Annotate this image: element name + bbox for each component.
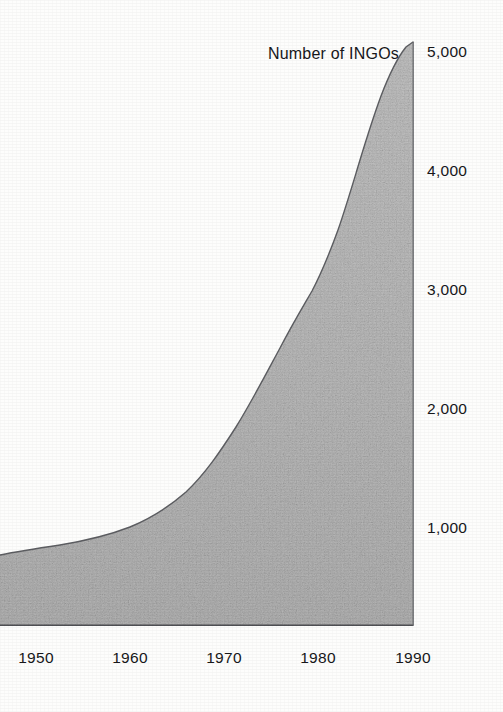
- chart-title: Number of INGOs: [268, 45, 399, 63]
- x-tick-label-1970: 1970: [206, 650, 242, 666]
- y-tick-label-3000: 3,000: [427, 282, 467, 298]
- y-tick-label-1000: 1,000: [427, 520, 467, 536]
- y-tick-label-5000: 5,000: [427, 44, 467, 60]
- y-tick-label-4000: 4,000: [427, 163, 467, 179]
- area-series-ingos: [0, 42, 413, 625]
- chart-plot-area: [0, 0, 503, 712]
- y-tick-label-2000: 2,000: [427, 401, 467, 417]
- x-tick-label-1950: 1950: [18, 650, 54, 666]
- ingo-growth-chart: 5,000 4,000 3,000 2,000 1,000 1950 1960 …: [0, 0, 503, 712]
- x-tick-label-1990: 1990: [395, 650, 431, 666]
- x-tick-label-1960: 1960: [112, 650, 148, 666]
- x-tick-label-1980: 1980: [300, 650, 336, 666]
